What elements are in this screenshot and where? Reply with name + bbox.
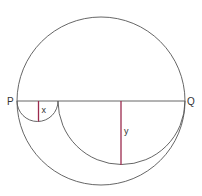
- label-y: y: [124, 126, 129, 136]
- label-x: x: [42, 105, 47, 115]
- small-semicircle: [17, 101, 58, 121]
- geometry-diagram: P Q x y: [0, 0, 202, 196]
- label-p: P: [7, 96, 14, 107]
- label-q: Q: [187, 96, 195, 107]
